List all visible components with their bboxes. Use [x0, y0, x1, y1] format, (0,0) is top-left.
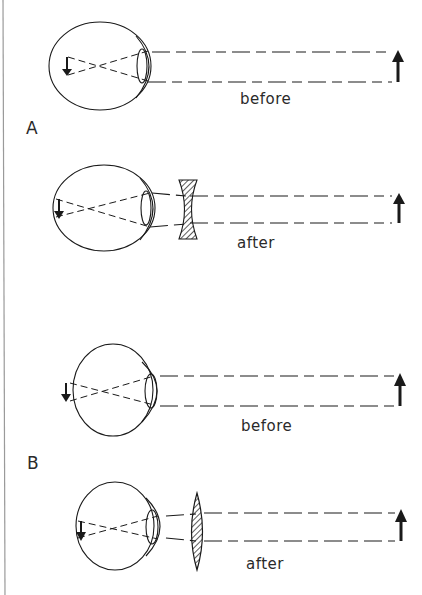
internal-ray-upper — [68, 57, 148, 81]
internal-ray-upper — [70, 383, 154, 405]
object-arrow-up-icon — [392, 50, 404, 82]
lens — [137, 49, 147, 83]
panel-a-after: after — [53, 165, 405, 252]
vision-correction-diagram: before A after — [0, 0, 422, 595]
ray-eye-to-lens-upper — [166, 514, 196, 516]
convex-lens — [192, 493, 203, 570]
panel-b-after: after — [76, 482, 407, 573]
ray-eye-to-lens-lower — [150, 224, 186, 227]
panel-a-before: before — [49, 22, 404, 110]
eyeball — [49, 22, 151, 110]
eyeball — [76, 482, 154, 570]
section-label-b: B — [27, 453, 39, 473]
caption-before: before — [240, 90, 291, 108]
caption-before: before — [241, 417, 292, 435]
object-arrow-up-icon — [394, 373, 406, 406]
object-arrow-up-icon — [393, 193, 405, 223]
internal-ray-lower — [70, 376, 154, 401]
retina-image-arrow-down-icon — [62, 57, 72, 76]
lens — [141, 191, 151, 225]
cornea — [142, 362, 157, 422]
page-edge-line — [3, 0, 5, 595]
concave-lens — [179, 180, 197, 239]
section-label-a: A — [26, 118, 38, 138]
ray-eye-to-lens-upper — [152, 193, 186, 196]
caption-after: after — [237, 234, 275, 252]
caption-after: after — [246, 555, 284, 573]
retina-image-arrow-down-icon — [61, 383, 71, 402]
eyeball — [53, 165, 155, 251]
eyeball — [73, 344, 153, 436]
object-arrow-up-icon — [395, 509, 407, 541]
internal-ray-lower — [68, 51, 148, 75]
retina-image-arrow-down-icon — [54, 199, 64, 219]
panel-b-before: before — [61, 344, 406, 436]
